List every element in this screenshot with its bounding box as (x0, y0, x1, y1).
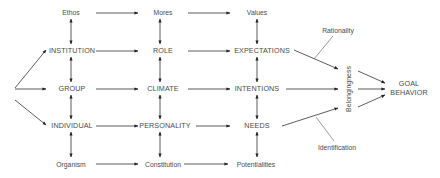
label-constitution: Constitution (145, 161, 181, 168)
label-intentions: INTENTIONS (235, 84, 280, 93)
label-potentialities: Potentialities (237, 161, 276, 168)
label-identification: Identification (318, 144, 356, 151)
label-group: GROUP (59, 84, 86, 93)
label-organism: Organism (56, 161, 86, 169)
label-role: ROLE (153, 46, 173, 55)
label-belongingness: Belongingness (345, 66, 353, 112)
label-expectations: EXPECTATIONS (234, 46, 290, 55)
label-needs: NEEDS (244, 121, 269, 130)
label-personality: PERSONALITY (139, 121, 191, 130)
label-rationality: Rationality (322, 27, 354, 35)
label-goal: GOAL (399, 79, 419, 88)
label-climate: CLIMATE (147, 84, 178, 93)
label-mores: Mores (154, 9, 173, 16)
label-institution: INSTITUTION (49, 46, 95, 55)
label-ethos: Ethos (62, 9, 80, 16)
label-values: Values (247, 9, 268, 16)
label-individual: INDIVIDUAL (51, 121, 92, 130)
social-systems-diagram: Ethos INSTITUTION GROUP INDIVIDUAL Organ… (0, 0, 440, 178)
label-behavior: BEHAVIOR (390, 88, 427, 97)
